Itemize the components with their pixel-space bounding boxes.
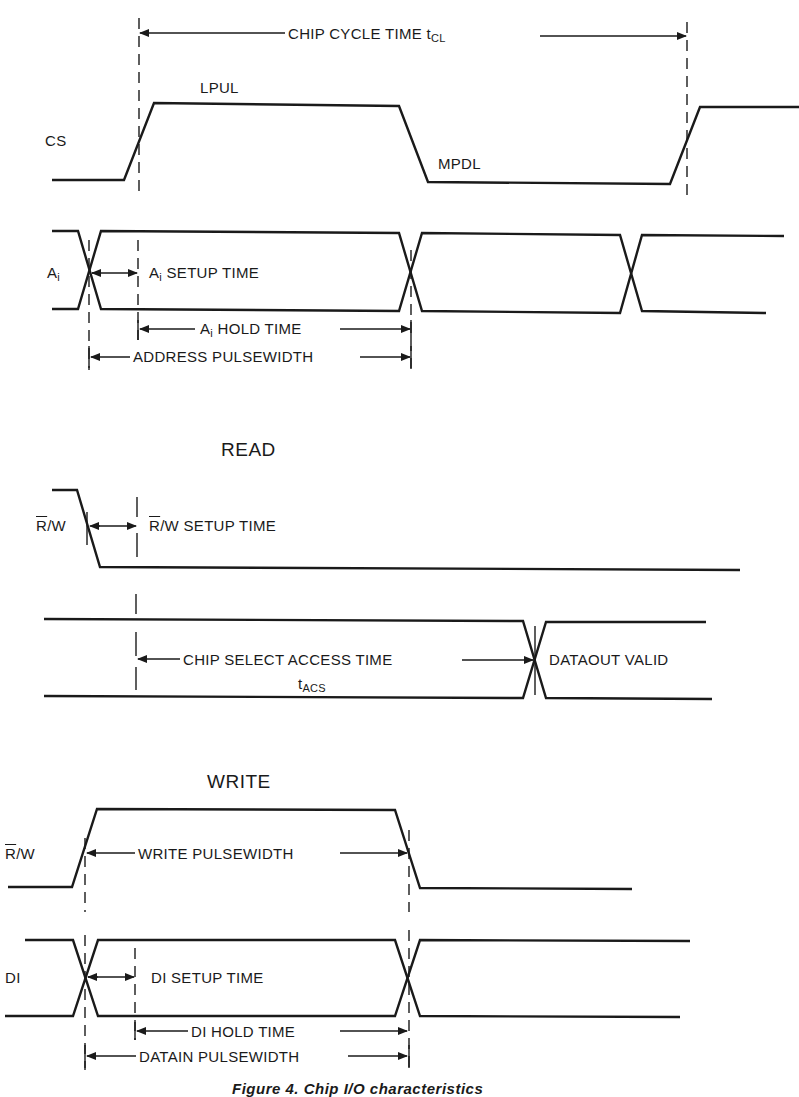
write-di-waveform <box>5 940 690 1017</box>
write-rw-waveform <box>8 809 632 889</box>
read-section-title: READ <box>221 440 276 459</box>
chip-cycle-time-label: CHIP CYCLE TIME tCL <box>288 26 446 44</box>
lpul-label: LPUL <box>200 80 239 95</box>
ai-hold-time-label: Ai HOLD TIME <box>197 321 305 339</box>
tacs-label: tACS <box>298 676 326 694</box>
ai-setup-time-label: Ai SETUP TIME <box>149 265 259 283</box>
cs-signal-label: CS <box>45 133 66 148</box>
address-pulsewidth-label: ADDRESS PULSEWIDTH <box>130 349 316 364</box>
rw-setup-time-label: R/W SETUP TIME <box>149 518 276 533</box>
mpdl-label: MPDL <box>438 156 481 171</box>
write-pulsewidth-label: WRITE PULSEWIDTH <box>135 846 297 861</box>
di-signal-label: DI <box>5 970 21 985</box>
figure-caption: Figure 4. Chip I/O characteristics <box>232 1081 483 1096</box>
chip-select-access-time-label: CHIP SELECT ACCESS TIME <box>180 652 395 667</box>
ai-signal-label: Ai <box>47 265 60 283</box>
dataout-valid-label: DATAOUT VALID <box>549 652 668 667</box>
di-setup-time-label: DI SETUP TIME <box>151 970 264 985</box>
write-section-title: WRITE <box>207 772 271 791</box>
datain-pulsewidth-label: DATAIN PULSEWIDTH <box>136 1049 302 1064</box>
read-rw-signal-label: R/W <box>36 518 66 533</box>
write-rw-signal-label: R/W <box>5 846 35 861</box>
di-hold-time-label: DI HOLD TIME <box>188 1024 298 1039</box>
